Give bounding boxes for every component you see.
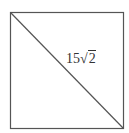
diagonal-line	[11, 13, 124, 129]
square-diagram	[0, 0, 129, 133]
label-radicand: 2	[88, 50, 96, 66]
label-coefficient: 15	[66, 51, 80, 66]
radical-symbol: √	[80, 51, 88, 66]
diagonal-length-label: 15√2	[66, 51, 96, 67]
